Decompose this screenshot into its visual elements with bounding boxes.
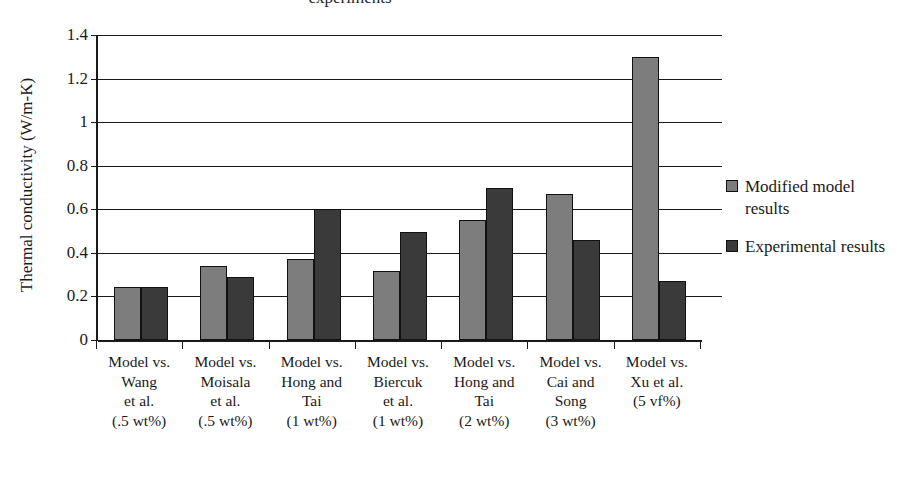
bar [200,266,227,340]
x-axis-category-label-line: (2 wt%) [435,411,533,431]
y-axis-title: Thermal conductivity (W/m-K) [17,25,37,345]
y-axis-tick-label: 1 [80,112,89,132]
y-axis-tick-labels: 1.41.210.80.60.40.20 [40,35,88,340]
x-axis-category-label: Model vs.Hong andTai(1 wt%) [263,352,361,430]
gridline [98,122,722,123]
bar [227,277,254,340]
x-axis-category-label: Model vs.Cai andSong(3 wt%) [521,352,619,430]
chart-legend: Modified model resultsExperimental resul… [726,176,894,274]
x-axis-category-label-line: Xu et al. [608,372,706,392]
x-axis-category-label-line: (3 wt%) [521,411,619,431]
x-axis-category-label-line: Wang [90,372,188,392]
legend-entry[interactable]: Experimental results [726,236,894,258]
x-axis-category-label-line: Tai [435,391,533,411]
x-axis-tick [614,340,615,349]
x-axis-tick [700,340,701,349]
bar [287,259,314,340]
x-axis-category-label-line: Tai [263,391,361,411]
y-axis-tick [91,122,98,123]
x-axis-category-label-line: (1 wt%) [263,411,361,431]
x-axis-tick [269,340,270,349]
y-axis-tick-label: 0.4 [67,243,88,263]
x-axis-category-label-line: Hong and [435,372,533,392]
x-axis-category-label-line: (.5 wt%) [176,411,274,431]
y-axis-tick [91,253,98,254]
x-axis-category-label-line: Model vs. [521,352,619,372]
legend-label: Experimental results [745,236,885,258]
y-axis-tick [91,79,98,80]
bar [373,271,400,340]
bar [314,209,341,340]
y-axis-tick-label: 1.4 [67,25,88,45]
bar [486,188,513,341]
y-axis-tick-label: 0 [80,330,89,350]
legend-swatch-icon [726,180,738,192]
gridline [98,209,722,210]
legend-label: Modified model results [745,176,894,220]
legend-entry[interactable]: Modified model results [726,176,894,220]
y-axis-tick-label: 0.8 [67,156,88,176]
y-axis-tick [91,209,98,210]
x-axis-category-label: Model vs.Biercuket al.(1 wt%) [349,352,447,430]
y-axis-tick-label: 0.6 [67,199,88,219]
x-axis-tick [182,340,183,349]
x-axis-category-label-line: (.5 wt%) [90,411,188,431]
bar [141,287,168,340]
x-axis-category-label-line: Model vs. [349,352,447,372]
x-axis-category-label-line: (1 wt%) [349,411,447,431]
y-axis-tick-label: 0.2 [67,286,88,306]
bar [659,281,686,340]
legend-swatch-icon [726,240,738,252]
x-axis-category-label-line: Moisala [176,372,274,392]
x-axis-category-label-line: Model vs. [435,352,533,372]
x-axis-tick [527,340,528,349]
x-axis-category-label-line: Hong and [263,372,361,392]
bar [400,232,427,340]
x-axis-category-label-line: Model vs. [263,352,361,372]
x-axis-category-label-line: Model vs. [90,352,188,372]
plot-area [96,35,702,340]
x-axis-category-label: Model vs.Wanget al.(.5 wt%) [90,352,188,430]
x-axis-category-label-line: (5 vf%) [608,391,706,411]
x-axis-category-label-line: et al. [349,391,447,411]
x-axis-tick [441,340,442,349]
x-axis-category-label: Model vs.Hong andTai(2 wt%) [435,352,533,430]
y-axis-tick [91,166,98,167]
x-axis-category-label-line: Model vs. [176,352,274,372]
bar [632,57,659,340]
x-axis-tick [355,340,356,349]
x-axis-category-label: Model vs.Xu et al.(5 vf%) [608,352,706,411]
gridline [98,340,702,342]
x-axis-category-label-line: Biercuk [349,372,447,392]
y-axis-tick-label: 1.2 [67,69,88,89]
x-axis-category-label-line: Cai and [521,372,619,392]
bar [114,287,141,340]
x-axis-category-label: Model vs.Moisalaet al.(.5 wt%) [176,352,274,430]
x-axis-tick [96,340,97,349]
bar [573,240,600,340]
y-axis-tick [91,296,98,297]
y-axis-tick [91,35,98,36]
bar [459,220,486,340]
x-axis-category-label-line: Song [521,391,619,411]
gridline [98,35,722,36]
bar-chart-figure: experiments Thermal conductivity (W/m-K)… [0,0,898,478]
bar [546,194,573,340]
gridline [98,79,722,80]
x-axis-category-label-line: et al. [90,391,188,411]
x-axis-category-label-line: et al. [176,391,274,411]
chart-title: experiments [0,0,700,8]
x-axis-category-label-line: Model vs. [608,352,706,372]
gridline [98,166,722,167]
